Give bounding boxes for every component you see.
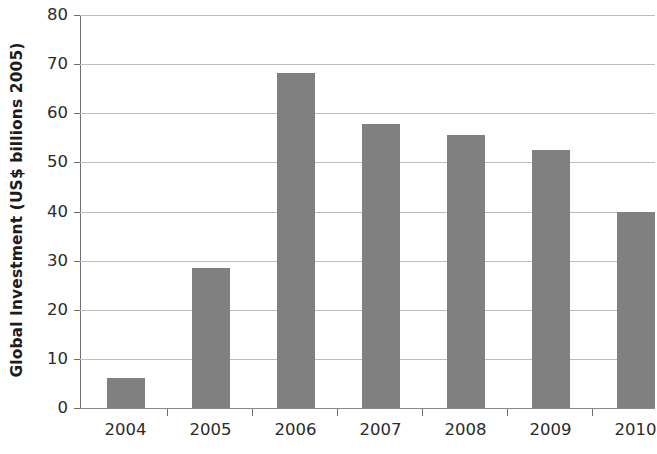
bar-2004: [107, 378, 145, 408]
x-tick-label-2008: 2008: [423, 421, 508, 439]
x-tick-mark-3: [337, 409, 338, 416]
y-tick-label-20: 20: [16, 302, 68, 319]
y-tick-label-80: 80: [16, 7, 68, 24]
x-tick-label-2006: 2006: [253, 421, 338, 439]
y-tick-label-10: 10: [16, 351, 68, 368]
bar-2010: [617, 212, 655, 409]
x-tick-label-2007: 2007: [338, 421, 423, 439]
gridline-60: [80, 113, 655, 114]
gridline-80: [80, 15, 655, 16]
x-tick-label-2004: 2004: [83, 421, 168, 439]
y-tick-label-50: 50: [16, 154, 68, 171]
x-tick-mark-1: [167, 409, 168, 416]
y-tick-label-60: 60: [16, 105, 68, 122]
bar-2005: [192, 268, 230, 408]
x-tick-label-2009: 2009: [508, 421, 593, 439]
bar-2006: [277, 73, 315, 408]
y-tick-label-40: 40: [16, 204, 68, 221]
x-tick-mark-4: [422, 409, 423, 416]
plot-area: [80, 15, 655, 408]
x-tick-label-2005: 2005: [168, 421, 253, 439]
gridline-70: [80, 64, 655, 65]
bar-chart-figure: Global Investment (US$ billions 2005) 80…: [0, 0, 657, 454]
x-tick-mark-5: [507, 409, 508, 416]
x-tick-mark-6: [592, 409, 593, 416]
bar-2008: [447, 135, 485, 408]
bar-2007: [362, 124, 400, 408]
x-tick-mark-2: [252, 409, 253, 416]
x-tick-label-2010: 2010: [593, 421, 657, 439]
y-tick-label-30: 30: [16, 253, 68, 270]
bar-2009: [532, 150, 570, 408]
y-tick-label-0: 0: [16, 400, 68, 417]
y-tick-label-70: 70: [16, 56, 68, 73]
